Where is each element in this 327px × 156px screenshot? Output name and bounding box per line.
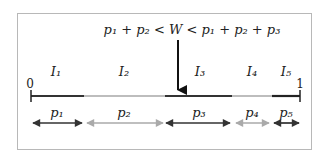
interval-label-4: I₄	[246, 64, 257, 79]
axis-end-label: 1	[296, 77, 304, 91]
interval-label-5: I₅	[280, 64, 292, 79]
interval-label-2: I₂	[118, 64, 129, 79]
interval-label-1: I₁	[50, 64, 61, 79]
interval-diagram: p₁ + p₂ < W < p₁ + p₂ + p₃ I₁ I₂ I₃ I₄ I…	[0, 0, 327, 156]
axis-start-label: 0	[26, 77, 34, 91]
prob-label-2: p₂	[117, 105, 131, 120]
prob-label-1: p₁	[50, 105, 64, 120]
prob-label-4: p₄	[245, 105, 259, 120]
interval-label-3: I₃	[194, 64, 205, 79]
prob-label-3: p₃	[192, 105, 206, 120]
unit-interval-line	[31, 90, 300, 102]
condition-label: p₁ + p₂ < W < p₁ + p₂ + p₃	[104, 22, 281, 37]
prob-label-5: p₅	[279, 105, 293, 120]
